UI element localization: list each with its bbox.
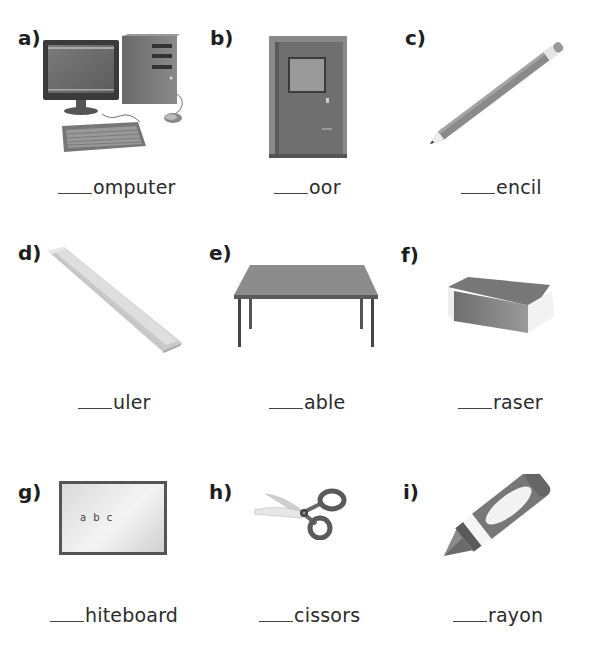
answer-blank[interactable] [58, 192, 92, 194]
word-suffix: hiteboard [85, 604, 178, 626]
item-eraser: f) raser [398, 215, 597, 430]
answer-blank[interactable] [453, 620, 487, 622]
item-table: e) able [199, 215, 398, 430]
answer-blank[interactable] [78, 407, 112, 409]
item-letter: c) [405, 26, 426, 50]
item-word: omputer [58, 176, 176, 198]
item-word: encil [461, 176, 542, 198]
whiteboard-icon: a b c [59, 481, 167, 555]
item-computer: a) omputer [0, 0, 199, 215]
word-suffix: cissors [294, 604, 360, 626]
answer-blank[interactable] [461, 192, 495, 194]
item-letter: h) [209, 480, 232, 504]
item-letter: b) [210, 26, 233, 50]
eraser-icon [448, 277, 558, 333]
item-letter: d) [18, 241, 41, 265]
item-word: uler [78, 391, 151, 413]
crayon-icon [438, 474, 558, 560]
item-word: oor [274, 176, 341, 198]
answer-blank[interactable] [458, 407, 492, 409]
answer-blank[interactable] [274, 192, 308, 194]
answer-blank[interactable] [50, 620, 84, 622]
item-word: hiteboard [50, 604, 178, 626]
door-icon [269, 36, 347, 158]
whiteboard-text: a b c [80, 512, 114, 523]
item-word: able [269, 391, 345, 413]
item-letter: a) [18, 26, 41, 50]
word-suffix: oor [309, 176, 341, 198]
item-whiteboard: g) a b c hiteboard [0, 430, 199, 645]
scissors-icon [254, 488, 350, 540]
word-suffix: uler [113, 391, 151, 413]
answer-blank[interactable] [259, 620, 293, 622]
ruler-icon [46, 245, 184, 355]
item-ruler: d) uler [0, 215, 199, 430]
computer-icon [40, 34, 190, 158]
item-letter: i) [403, 480, 419, 504]
item-pencil: c) encil [398, 0, 597, 215]
word-suffix: encil [496, 176, 542, 198]
word-suffix: raser [493, 391, 543, 413]
item-scissors: h) cissors [199, 430, 398, 645]
item-word: rayon [453, 604, 543, 626]
table-icon [234, 265, 380, 347]
item-word: cissors [259, 604, 360, 626]
item-letter: f) [401, 243, 419, 267]
answer-blank[interactable] [269, 407, 303, 409]
word-suffix: able [304, 391, 345, 413]
item-letter: g) [18, 480, 41, 504]
word-suffix: rayon [488, 604, 543, 626]
item-crayon: i) rayon [398, 430, 597, 645]
item-word: raser [458, 391, 543, 413]
item-letter: e) [209, 241, 232, 265]
item-door: b) oor [199, 0, 398, 215]
pencil-icon [426, 36, 570, 148]
word-suffix: omputer [93, 176, 176, 198]
